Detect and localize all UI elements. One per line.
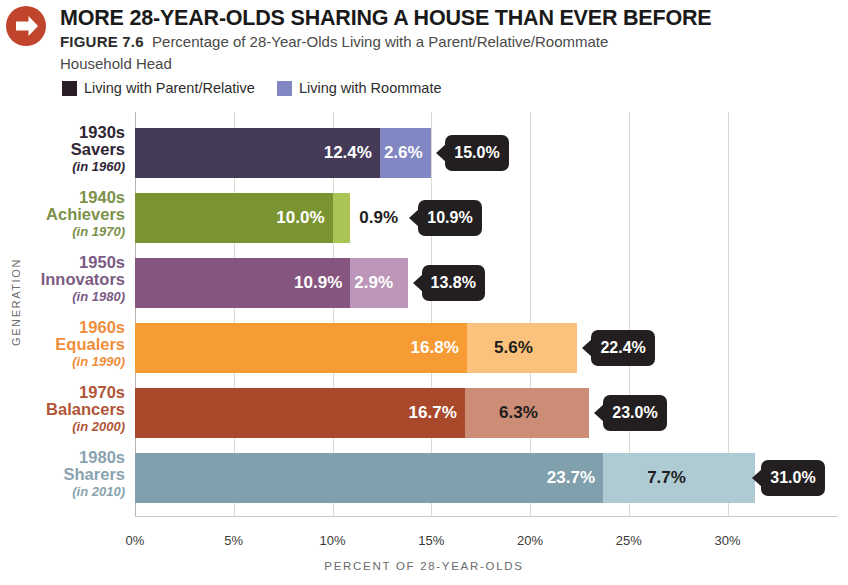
x-axis-ticks: 0%5%10%15%20%25%30% <box>0 533 848 553</box>
category-year: (in 2010) <box>0 483 125 500</box>
value-label-roommate: 2.6% <box>384 128 423 178</box>
total-callout: 31.0% <box>761 460 824 496</box>
x-tick-label-0: 0% <box>105 533 165 548</box>
legend: Living with Parent/Relative Living with … <box>62 80 442 96</box>
x-tick-label-30: 30% <box>698 533 758 548</box>
x-tick-label-15: 15% <box>401 533 461 548</box>
category-label: 1930sSavers(in 1960) <box>0 124 125 175</box>
legend-item-parent-relative: Living with Parent/Relative <box>62 80 255 96</box>
x-tick-label-25: 25% <box>599 533 659 548</box>
category-decade: 1930s <box>0 124 125 141</box>
total-value: 22.4% <box>600 339 645 356</box>
category-name: Sharers <box>0 466 125 483</box>
category-year: (in 2000) <box>0 418 125 435</box>
figure-caption-line2: Household Head <box>60 55 840 72</box>
total-callout: 15.0% <box>445 135 508 171</box>
value-label-roommate: 6.3% <box>499 388 538 438</box>
callout-tail-icon <box>409 209 419 227</box>
bar-row: 1970sBalancers(in 2000)16.7%6.3%23.0% <box>0 388 848 438</box>
category-decade: 1980s <box>0 449 125 466</box>
category-label: 1980sSharers(in 2010) <box>0 449 125 500</box>
value-label-roommate: 5.6% <box>494 323 533 373</box>
category-year: (in 1980) <box>0 288 125 305</box>
value-label-roommate: 2.9% <box>354 258 393 308</box>
total-value: 23.0% <box>612 404 657 421</box>
category-name: Balancers <box>0 401 125 418</box>
x-tick-label-20: 20% <box>500 533 560 548</box>
category-name: Innovators <box>0 271 125 288</box>
legend-label-parent-relative: Living with Parent/Relative <box>84 80 255 96</box>
category-label: 1940sAchievers(in 1970) <box>0 189 125 240</box>
category-label: 1970sBalancers(in 2000) <box>0 384 125 435</box>
category-year: (in 1990) <box>0 353 125 370</box>
total-callout: 22.4% <box>591 330 654 366</box>
total-callout: 23.0% <box>603 395 666 431</box>
total-callout: 10.9% <box>418 200 481 236</box>
callout-tail-icon <box>436 144 446 162</box>
category-decade: 1940s <box>0 189 125 206</box>
legend-swatch-roommate <box>277 81 292 96</box>
page-title: MORE 28-YEAR-OLDS SHARING A HOUSE THAN E… <box>60 6 840 31</box>
x-tick-label-10: 10% <box>303 533 363 548</box>
figure-number: FIGURE 7.6 <box>60 33 144 50</box>
legend-item-roommate: Living with Roommate <box>277 80 442 96</box>
bar-row: 1950sInnovators(in 1980)10.9%2.9%13.8% <box>0 258 848 308</box>
total-value: 10.9% <box>427 209 472 226</box>
legend-swatch-parent-relative <box>62 81 77 96</box>
category-decade: 1950s <box>0 254 125 271</box>
category-year: (in 1960) <box>0 158 125 175</box>
figure-caption-line1: FIGURE 7.6 Percentage of 28-Year-Olds Li… <box>60 33 840 50</box>
red-circle-right-arrow-icon <box>4 4 48 48</box>
figure-caption-text: Percentage of 28-Year-Olds Living with a… <box>152 33 608 50</box>
total-value: 31.0% <box>770 469 815 486</box>
callout-tail-icon <box>594 404 604 422</box>
figure-root: MORE 28-YEAR-OLDS SHARING A HOUSE THAN E… <box>0 0 848 585</box>
x-axis-title: PERCENT OF 28-YEAR-OLDS <box>0 560 848 572</box>
bar-row: 1980sSharers(in 2010)23.7%7.7%31.0% <box>0 453 848 503</box>
category-year: (in 1970) <box>0 223 125 240</box>
callout-tail-icon <box>413 274 423 292</box>
category-name: Savers <box>0 141 125 158</box>
bar-row: 1940sAchievers(in 1970)10.0%0.9%10.9% <box>0 193 848 243</box>
total-value: 13.8% <box>431 274 476 291</box>
legend-label-roommate: Living with Roommate <box>299 80 442 96</box>
callout-tail-icon <box>582 339 592 357</box>
value-label-parent-relative: 16.7% <box>397 388 457 438</box>
total-callout: 13.8% <box>422 265 485 301</box>
bar-row: 1960sEqualers(in 1990)16.8%5.6%22.4% <box>0 323 848 373</box>
category-label: 1950sInnovators(in 1980) <box>0 254 125 305</box>
value-label-roommate: 7.7% <box>647 453 686 503</box>
value-label-parent-relative: 10.9% <box>282 258 342 308</box>
value-label-roommate: 0.9% <box>359 193 398 243</box>
bar-row: 1930sSavers(in 1960)12.4%2.6%15.0% <box>0 128 848 178</box>
total-value: 15.0% <box>454 144 499 161</box>
value-label-parent-relative: 10.0% <box>265 193 325 243</box>
plot-area: GENERATION 1930sSavers(in 1960)12.4%2.6%… <box>0 108 848 528</box>
bar-rows: 1930sSavers(in 1960)12.4%2.6%15.0%1940sA… <box>0 108 848 528</box>
value-label-parent-relative: 23.7% <box>535 453 595 503</box>
bar-segment-parent-relative[interactable] <box>135 453 603 503</box>
category-decade: 1960s <box>0 319 125 336</box>
category-name: Achievers <box>0 206 125 223</box>
value-label-parent-relative: 16.8% <box>399 323 459 373</box>
category-label: 1960sEqualers(in 1990) <box>0 319 125 370</box>
category-name: Equalers <box>0 336 125 353</box>
bar-segment-roommate[interactable] <box>333 193 351 243</box>
category-decade: 1970s <box>0 384 125 401</box>
callout-tail-icon <box>752 469 762 487</box>
x-tick-label-5: 5% <box>204 533 264 548</box>
value-label-parent-relative: 12.4% <box>312 128 372 178</box>
